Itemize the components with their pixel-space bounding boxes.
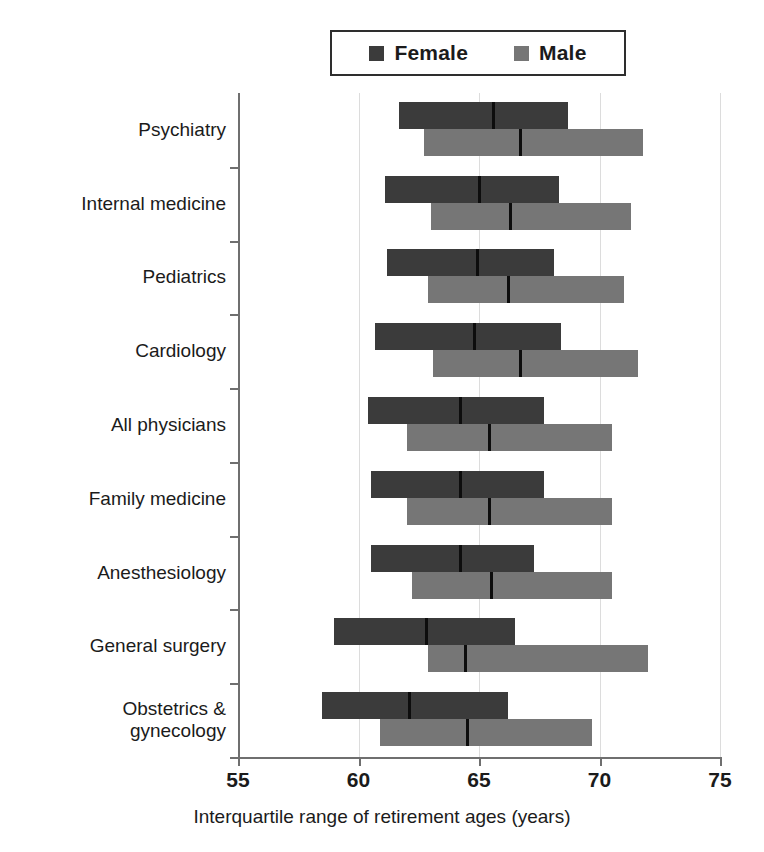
median-marker-female-3 [473,323,476,350]
y-tick-2 [230,314,239,316]
legend-label-female: Female [394,41,468,65]
x-tick-label-55: 55 [208,768,268,792]
bar-male-5 [407,498,612,525]
chart-legend: Female Male [330,30,626,76]
bar-female-3 [375,323,561,350]
category-label-4: All physicians [8,414,226,436]
median-marker-male-3 [519,350,522,377]
category-label-0: Psychiatry [8,119,226,141]
bar-female-6 [371,545,535,572]
y-tick-0 [230,167,239,169]
bar-male-3 [433,350,638,377]
median-marker-female-8 [408,692,411,719]
median-marker-male-4 [488,424,491,451]
gridline-75 [720,93,721,757]
y-tick-4 [230,462,239,464]
y-tick-5 [230,536,239,538]
category-label-6: Anesthesiology [8,562,226,584]
median-marker-male-8 [466,719,469,746]
y-tick-1 [230,241,239,243]
median-marker-female-7 [425,618,428,645]
plot-area [238,93,720,757]
bar-male-4 [407,424,612,451]
x-tick-label-60: 60 [329,768,389,792]
median-marker-male-1 [509,203,512,230]
bar-male-0 [424,129,643,156]
gridline-60 [359,93,360,757]
x-tick-label-65: 65 [449,768,509,792]
median-marker-male-6 [490,572,493,599]
median-marker-female-2 [476,249,479,276]
category-axis-labels: PsychiatryInternal medicinePediatricsCar… [0,93,226,757]
x-tick-75 [720,757,722,766]
median-marker-male-7 [464,645,467,672]
median-marker-female-6 [459,545,462,572]
y-tick-3 [230,388,239,390]
y-tick-7 [230,683,239,685]
legend-entry-female: Female [369,41,468,65]
x-tick-65 [479,757,481,766]
category-label-2: Pediatrics [8,266,226,288]
bar-female-2 [387,249,553,276]
median-marker-female-4 [459,397,462,424]
category-label-5: Family medicine [8,488,226,510]
category-label-3: Cardiology [8,340,226,362]
x-tick-label-70: 70 [570,768,630,792]
median-marker-male-2 [507,276,510,303]
median-marker-female-1 [478,176,481,203]
bar-female-5 [371,471,545,498]
category-label-8: Obstetrics &gynecology [8,698,226,743]
y-tick-6 [230,609,239,611]
bar-male-8 [380,719,592,746]
bar-female-1 [385,176,559,203]
y-axis-line [238,93,240,757]
female-swatch [369,46,384,61]
median-marker-male-0 [519,129,522,156]
bar-female-0 [399,102,568,129]
x-axis-title: Interquartile range of retirement ages (… [0,806,764,828]
bar-female-4 [368,397,544,424]
male-swatch [514,46,529,61]
bar-male-1 [431,203,631,230]
bar-male-7 [428,645,647,672]
legend-entry-male: Male [514,41,587,65]
category-label-1: Internal medicine [8,193,226,215]
category-label-7: General surgery [8,635,226,657]
y-tick-8 [230,757,239,759]
x-tick-label-75: 75 [690,768,750,792]
x-tick-70 [600,757,602,766]
bar-female-8 [322,692,508,719]
bar-male-6 [412,572,612,599]
legend-label-male: Male [539,41,587,65]
median-marker-male-5 [488,498,491,525]
median-marker-female-0 [492,102,495,129]
x-tick-60 [359,757,361,766]
bar-male-2 [428,276,623,303]
chart-figure: Female Male PsychiatryInternal medicineP… [0,0,764,852]
median-marker-female-5 [459,471,462,498]
